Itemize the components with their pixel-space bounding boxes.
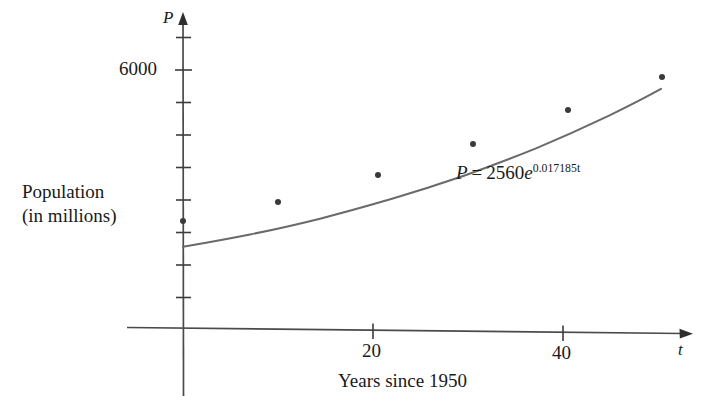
data-point-t40 <box>565 107 571 113</box>
equation-exponent: 0.017185t <box>533 162 580 175</box>
y-tick-label-6000: 6000 <box>119 58 157 80</box>
equation-base: e <box>524 162 532 183</box>
x-tick-label-20: 20 <box>362 340 381 362</box>
equation-equals: = <box>472 162 483 183</box>
model-equation-annotation: P=2560e0.017185t <box>456 162 580 184</box>
x-tick-label-40: 40 <box>552 342 571 364</box>
population-exponential-growth-chart: P t 6000 20 40 Population (in millions) … <box>0 0 710 415</box>
y-axis-arrowhead <box>178 12 188 25</box>
y-axis-line <box>183 22 184 396</box>
data-points-group <box>180 74 665 224</box>
y-axis-title-line-2: (in millions) <box>22 204 116 228</box>
y-axis-symbol-label: P <box>163 8 173 28</box>
x-axis-title: Years since 1950 <box>338 370 467 392</box>
axes-group <box>127 12 693 396</box>
x-axis-line <box>127 328 683 334</box>
x-axis-arrowhead <box>680 329 694 339</box>
data-point-t20 <box>375 172 381 178</box>
equation-lhs: P <box>456 162 468 183</box>
x-axis-symbol-label: t <box>678 340 683 360</box>
y-axis-title: Population (in millions) <box>22 180 116 228</box>
exponential-model-curve <box>183 89 661 247</box>
data-point-t30 <box>470 141 476 147</box>
equation-coefficient: 2560 <box>486 162 524 183</box>
data-point-t10 <box>275 199 281 205</box>
data-point-t50 <box>659 74 665 80</box>
data-point-t0 <box>180 218 186 224</box>
y-axis-title-line-1: Population <box>22 180 116 204</box>
